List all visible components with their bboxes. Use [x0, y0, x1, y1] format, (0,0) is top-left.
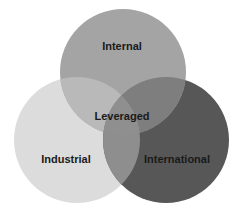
- label-leveraged: Leveraged: [94, 110, 149, 122]
- label-internal: Internal: [102, 40, 142, 52]
- label-international: International: [144, 153, 210, 165]
- venn-diagram: Internal Leveraged Industrial Internatio…: [0, 0, 246, 216]
- label-industrial: Industrial: [41, 153, 91, 165]
